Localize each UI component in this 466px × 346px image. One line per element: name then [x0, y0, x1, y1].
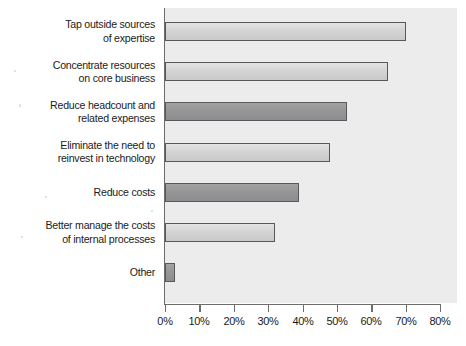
tick-mark-60 — [371, 305, 372, 312]
tick-label-80: 80% — [419, 314, 461, 327]
bar-4 — [165, 183, 299, 202]
tick-mark-10 — [199, 305, 200, 312]
bar-6 — [165, 263, 175, 282]
category-label-6: Other — [14, 266, 155, 279]
tick-mark-80 — [440, 305, 441, 312]
category-label-4: Reduce costs — [14, 186, 155, 199]
category-label-5: Better manage the costs of internal proc… — [14, 219, 155, 245]
tick-mark-70 — [406, 305, 407, 312]
scan-speckle — [45, 196, 47, 198]
bar-3 — [165, 143, 330, 162]
category-label-2: Reduce headcount and related expenses — [14, 99, 155, 125]
category-label-column: Tap outside sources of expertiseConcentr… — [0, 10, 155, 300]
tick-mark-20 — [234, 305, 235, 312]
tick-mark-0 — [165, 305, 166, 312]
bar-5 — [165, 223, 275, 242]
tick-mark-40 — [303, 305, 304, 312]
bar-1 — [165, 62, 388, 81]
bar-2 — [165, 102, 347, 121]
bar-0 — [165, 22, 406, 41]
category-label-1: Concentrate resources on core business — [14, 59, 155, 85]
tick-mark-50 — [337, 305, 338, 312]
category-label-0: Tap outside sources of expertise — [14, 18, 155, 44]
tick-mark-30 — [268, 305, 269, 312]
scan-speckle — [151, 210, 153, 212]
category-label-3: Eliminate the need to reinvest in techno… — [14, 139, 155, 165]
bar-chart: Tap outside sources of expertiseConcentr… — [0, 0, 466, 346]
